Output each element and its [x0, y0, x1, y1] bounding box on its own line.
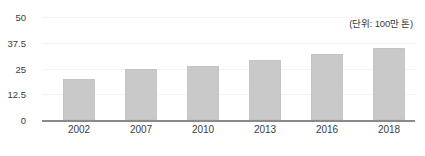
bar-slot-2002: [48, 17, 110, 120]
x-axis-line: [42, 120, 415, 122]
y-axis-tick-0: 0: [0, 115, 26, 126]
y-axis-tick-25: 25: [0, 63, 26, 74]
bar-slot-2016: [296, 17, 358, 120]
x-axis-tick-2013: 2013: [234, 124, 296, 135]
y-axis-tick-37-5: 37.5: [0, 37, 26, 48]
bar-slot-2010: [172, 17, 234, 120]
bar-chart: (단위: 100만 톤) 50 37.5 25 12.5 0: [0, 0, 425, 156]
bar-slot-2007: [110, 17, 172, 120]
x-axis-tick-2016: 2016: [296, 124, 358, 135]
bar-slot-2018: [358, 17, 420, 120]
bar-2018[interactable]: [373, 48, 405, 120]
plot-area: 50 37.5 25 12.5 0: [42, 17, 415, 120]
bar-slot-2013: [234, 17, 296, 120]
x-axis-tick-2007: 2007: [110, 124, 172, 135]
bar-2010[interactable]: [187, 66, 219, 120]
x-axis-tick-2018: 2018: [358, 124, 420, 135]
x-axis-tick-2010: 2010: [172, 124, 234, 135]
bar-2007[interactable]: [125, 69, 157, 121]
y-axis-tick-12-5: 12.5: [0, 89, 26, 100]
x-axis-labels: 2002 2007 2010 2013 2016 2018: [42, 124, 415, 144]
bar-2016[interactable]: [311, 54, 343, 120]
bar-2002[interactable]: [63, 79, 95, 120]
y-axis-tick-50: 50: [0, 12, 26, 23]
bar-2013[interactable]: [249, 60, 281, 120]
x-axis-tick-2002: 2002: [48, 124, 110, 135]
bar-group: [42, 17, 415, 120]
